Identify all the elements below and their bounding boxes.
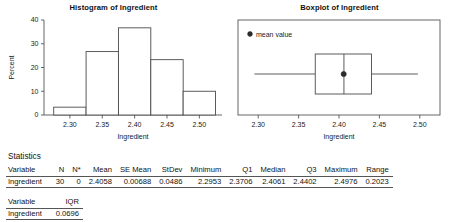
table-cell: 2.2953 <box>186 176 225 188</box>
y-tick-label: 40 <box>31 16 39 23</box>
table-cell: 0.2023 <box>362 176 393 188</box>
column-header: Variable <box>6 165 52 176</box>
column-header: StDev <box>155 165 186 176</box>
boxplot-chart: 2.302.352.402.452.50mean valueIngredient <box>226 12 453 146</box>
column-header: SE Mean <box>116 165 155 176</box>
table-cell: 0.00688 <box>116 176 155 188</box>
x-tick-label: 2.50 <box>193 121 207 128</box>
column-header: IQR <box>52 197 83 208</box>
x-tick-label: 2.30 <box>63 121 77 128</box>
histogram-bar <box>151 60 183 115</box>
table-header-row: VariableNN*MeanSE MeanStDevMinimumQ1Medi… <box>6 165 393 176</box>
y-tick-label: 20 <box>31 64 39 71</box>
table-cell: 30 <box>52 176 68 188</box>
x-axis-title: Ingredient <box>323 133 354 141</box>
x-tick-label: 2.40 <box>128 121 142 128</box>
column-header: Maximum <box>321 165 362 176</box>
column-header: Mean <box>85 165 116 176</box>
histogram-chart: 0102030402.302.352.402.452.50IngredientP… <box>0 12 227 146</box>
table-header-row: VariableIQR <box>6 197 83 208</box>
table-cell: 0 <box>68 176 84 188</box>
table-cell: 0.0696 <box>52 208 83 220</box>
table-row: Ingredient0.0696 <box>6 208 83 220</box>
y-tick-label: 10 <box>31 88 39 95</box>
histogram-bar <box>54 107 86 115</box>
y-tick-label: 0 <box>35 111 39 118</box>
row-label: Ingredient <box>6 176 52 188</box>
column-header: N* <box>68 165 84 176</box>
table-cell: 2.3706 <box>225 176 256 188</box>
column-header: Variable <box>6 197 52 208</box>
statistics-heading: Statistics <box>8 152 41 161</box>
x-axis-title: Ingredient <box>117 133 148 141</box>
boxplot-title: Boxplot of Ingredient <box>226 3 453 12</box>
charts-area: Histogram of Ingredient 0102030402.302.3… <box>0 0 453 150</box>
boxplot-panel: Boxplot of Ingredient 2.302.352.402.452.… <box>226 0 453 150</box>
histogram-bar <box>183 91 215 115</box>
table-cell: 2.4061 <box>256 176 289 188</box>
descriptive-statistics-table: VariableNN*MeanSE MeanStDevMinimumQ1Medi… <box>6 165 393 188</box>
y-tick-label: 30 <box>31 40 39 47</box>
legend-label: mean value <box>256 31 292 38</box>
statistics-output-page: Histogram of Ingredient 0102030402.302.3… <box>0 0 453 222</box>
column-header: Q3 <box>289 165 320 176</box>
table-cell: 2.4402 <box>289 176 320 188</box>
table-cell: 2.4058 <box>85 176 116 188</box>
column-header: Range <box>362 165 393 176</box>
histogram-bar <box>86 52 118 115</box>
column-header: N <box>52 165 68 176</box>
row-label: Ingredient <box>6 208 52 220</box>
column-header: Median <box>256 165 289 176</box>
x-tick-label: 2.50 <box>413 121 427 128</box>
table-cell: 0.0486 <box>155 176 186 188</box>
histogram-title: Histogram of Ingredient <box>0 3 227 12</box>
x-tick-label: 2.30 <box>251 121 265 128</box>
column-header: Q1 <box>225 165 256 176</box>
x-tick-label: 2.35 <box>95 121 109 128</box>
histogram-bar <box>118 28 150 115</box>
table-cell: 2.4976 <box>321 176 362 188</box>
y-axis-title: Percent <box>8 55 15 79</box>
iqr-table: VariableIQR Ingredient0.0696 <box>6 197 83 220</box>
x-tick-label: 2.35 <box>292 121 306 128</box>
column-header: Minimum <box>186 165 225 176</box>
histogram-panel: Histogram of Ingredient 0102030402.302.3… <box>0 0 227 150</box>
mean-marker <box>341 71 346 76</box>
legend-mean-marker <box>248 32 253 37</box>
x-tick-label: 2.40 <box>332 121 346 128</box>
table-row: Ingredient3002.40580.006880.04862.29532.… <box>6 176 393 188</box>
x-tick-label: 2.45 <box>373 121 387 128</box>
x-tick-label: 2.45 <box>160 121 174 128</box>
statistics-section: Statistics VariableNN*MeanSE MeanStDevMi… <box>0 150 453 222</box>
